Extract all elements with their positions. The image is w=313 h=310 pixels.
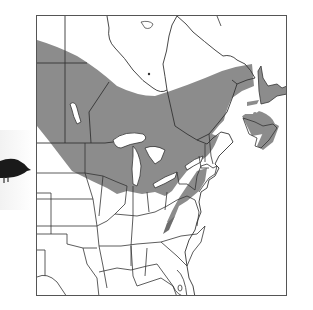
range-map-svg <box>37 16 287 296</box>
bird-photo <box>0 130 34 210</box>
range-map: Range <box>36 15 287 296</box>
bird-silhouette-icon <box>0 130 34 210</box>
